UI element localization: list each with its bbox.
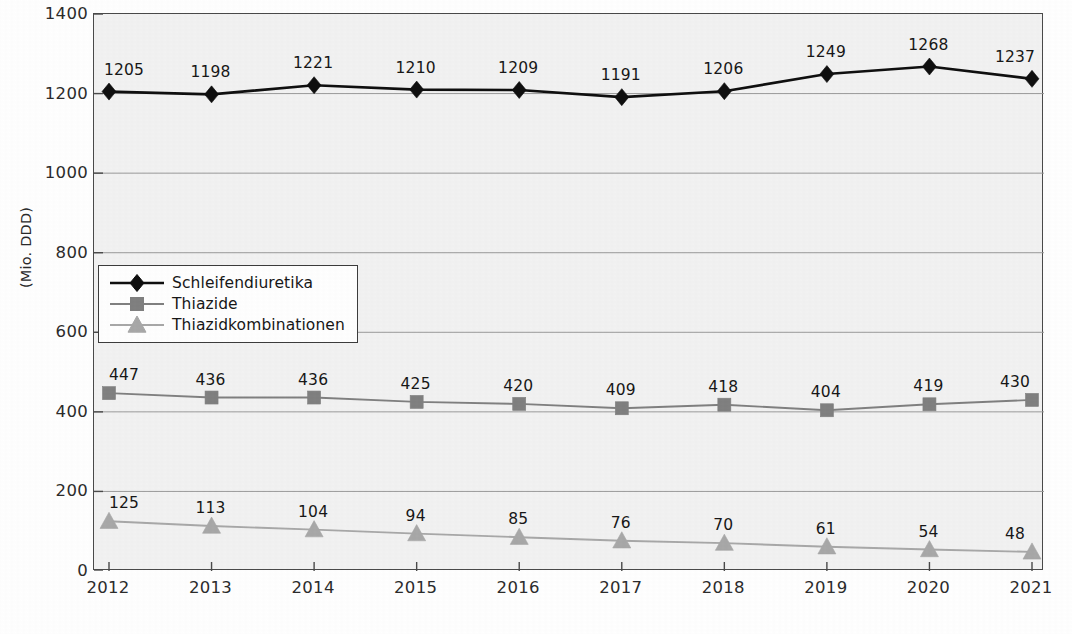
data-point-label: 104	[298, 503, 328, 521]
y-axis-tick-label: 600	[34, 322, 88, 341]
data-point-label: 420	[503, 377, 533, 395]
data-point-label: 70	[713, 516, 733, 534]
x-axis-tick-label: 2021	[1009, 578, 1052, 597]
data-point-label: 1237	[995, 48, 1035, 66]
data-point-label: 1198	[190, 63, 230, 81]
data-point-label: 85	[508, 510, 528, 528]
x-axis-tick-label: 2014	[292, 578, 335, 597]
data-point-label: 54	[918, 523, 938, 541]
data-point-label: 425	[401, 375, 431, 393]
square-icon	[108, 294, 166, 314]
diamond-icon	[108, 273, 166, 293]
chart-figure: (Mio. DDD) 0200400600800100012001400 201…	[0, 0, 1072, 634]
x-axis-tick-label: 2019	[804, 578, 847, 597]
data-point-label: 409	[606, 381, 636, 399]
data-point-label: 61	[816, 520, 836, 538]
data-point-label: 113	[195, 499, 225, 517]
y-axis-tick-label: 0	[34, 561, 88, 580]
data-point-label: 1268	[908, 36, 948, 54]
data-point-label: 430	[1000, 373, 1030, 391]
x-axis-tick-label: 2018	[702, 578, 745, 597]
y-axis-tick-label: 800	[34, 242, 88, 261]
data-point-label: 419	[913, 377, 943, 395]
y-axis-tick-labels: 0200400600800100012001400	[30, 0, 88, 634]
data-point-label: 404	[811, 383, 841, 401]
data-point-label: 418	[708, 378, 738, 396]
data-point-label: 1191	[601, 66, 641, 84]
chart-legend: SchleifendiuretikaThiazideThiazidkombina…	[98, 265, 358, 343]
legend-entry: Schleifendiuretika	[108, 272, 345, 293]
data-point-label: 1205	[104, 61, 144, 79]
y-axis-tick-label: 400	[34, 401, 88, 420]
x-axis-tick-label: 2013	[189, 578, 232, 597]
x-axis-tick-label: 2015	[394, 578, 437, 597]
x-axis-tick-label: 2017	[599, 578, 642, 597]
data-point-label: 125	[109, 494, 139, 512]
data-point-label: 48	[1005, 525, 1025, 543]
data-point-label: 436	[195, 371, 225, 389]
data-point-label: 1249	[806, 43, 846, 61]
data-point-label: 1206	[703, 60, 743, 78]
data-point-label: 1221	[293, 54, 333, 72]
x-axis-tick-label: 2016	[497, 578, 540, 597]
x-axis-tick-label: 2020	[907, 578, 950, 597]
legend-entry: Thiazidkombinationen	[108, 314, 345, 335]
legend-entry-label: Schleifendiuretika	[166, 274, 313, 292]
y-axis-tick-label: 1000	[34, 163, 88, 182]
y-axis-tick-label: 1400	[34, 4, 88, 23]
data-point-label: 436	[298, 371, 328, 389]
x-axis-tick-label: 2012	[86, 578, 129, 597]
legend-entry: Thiazide	[108, 293, 345, 314]
data-point-label: 1209	[498, 59, 538, 77]
legend-entry-label: Thiazide	[166, 295, 238, 313]
triangle-icon	[108, 315, 166, 335]
y-axis-tick-label: 200	[34, 481, 88, 500]
data-point-label: 76	[611, 514, 631, 532]
legend-entry-label: Thiazidkombinationen	[166, 316, 345, 334]
data-point-label: 1210	[396, 59, 436, 77]
data-point-label: 447	[109, 366, 139, 384]
data-point-label: 94	[406, 507, 426, 525]
y-axis-tick-label: 1200	[34, 83, 88, 102]
